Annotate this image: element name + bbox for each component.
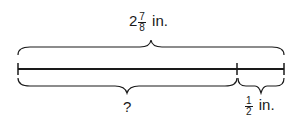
fraction: 78 [138, 12, 146, 33]
unit: in. [259, 96, 275, 113]
total-length-label: 278 in. [129, 12, 168, 33]
bottom-brace-unknown [18, 78, 237, 93]
unit: in. [152, 12, 168, 29]
denominator: 2 [245, 107, 253, 117]
part-length-label: 12 in. [244, 96, 275, 117]
top-brace [18, 40, 284, 55]
whole-number: 2 [129, 12, 137, 29]
fraction: 12 [245, 96, 253, 117]
bottom-brace-part [238, 78, 284, 93]
unknown-label: ? [123, 99, 131, 114]
denominator: 8 [138, 23, 146, 33]
